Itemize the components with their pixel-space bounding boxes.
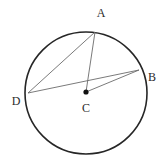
circle-diagram-canvas bbox=[0, 0, 163, 165]
segment-db bbox=[28, 70, 139, 93]
vertex-label-a: A bbox=[97, 7, 106, 19]
segment-ac bbox=[86, 32, 95, 92]
vertex-label-b: B bbox=[148, 71, 156, 83]
segment-ad bbox=[28, 32, 95, 93]
segment-cb bbox=[86, 70, 139, 92]
vertex-label-c: C bbox=[82, 102, 90, 114]
vertex-label-d: D bbox=[12, 95, 21, 107]
geometry-figure: A B D C bbox=[0, 0, 163, 165]
center-point-dot bbox=[83, 89, 88, 94]
